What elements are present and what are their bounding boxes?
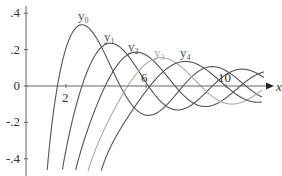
y-tick-label: -.4 <box>6 151 21 166</box>
x-axis-label: x <box>275 79 282 94</box>
x-tick-label: 2 <box>62 90 69 105</box>
x-tick-label: 10 <box>218 70 231 85</box>
x-axis-arrow-icon <box>266 83 274 90</box>
series-label-y2: y2 <box>128 39 139 56</box>
chart: x 2610.4.20-.2-.4 y0y1y2y3y4 <box>0 0 282 176</box>
y-tick-label: 0 <box>14 78 21 93</box>
curve-y1 <box>62 43 264 169</box>
series-label-y0: y0 <box>78 8 89 25</box>
series-label-subscript: 2 <box>135 47 139 56</box>
y-tick-label: .4 <box>10 5 20 20</box>
y-tick-label: -.2 <box>6 114 20 129</box>
series-label-subscript: 1 <box>111 37 115 46</box>
series-label-subscript: 0 <box>85 16 89 25</box>
x-tick-label: 6 <box>141 70 148 85</box>
series-label-subscript: 3 <box>161 53 165 62</box>
curve-y4 <box>101 61 262 170</box>
series-label-subscript: 4 <box>187 53 191 62</box>
series-label-y3: y3 <box>154 45 165 62</box>
series-label-y1: y1 <box>104 29 115 46</box>
y-tick-label: .2 <box>10 42 20 57</box>
series-label-y4: y4 <box>180 45 191 62</box>
